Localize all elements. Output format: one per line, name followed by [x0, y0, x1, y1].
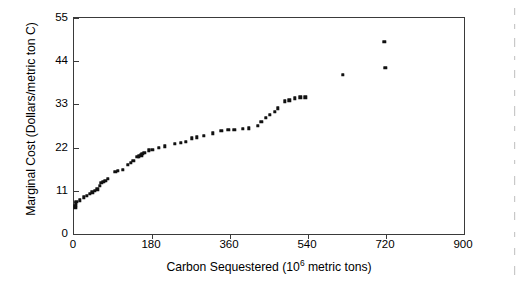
x-axis-tick-label: 180 — [141, 238, 160, 250]
y-axis-tick-labels: 01122334455 — [40, 17, 68, 235]
y-axis-tick — [74, 234, 79, 235]
data-point — [179, 141, 182, 144]
data-point — [98, 184, 101, 187]
x-axis-tick-label: 900 — [453, 238, 472, 250]
x-axis-title-main: Carbon Sequestered (10 — [166, 260, 299, 274]
y-axis-tick-label: 55 — [55, 11, 68, 23]
data-point — [259, 120, 262, 123]
data-point — [298, 96, 301, 99]
data-point — [132, 159, 135, 162]
data-point — [241, 127, 244, 130]
data-point — [283, 100, 286, 103]
x-axis-tick-label: 0 — [70, 238, 76, 250]
data-point — [268, 113, 271, 116]
data-point — [233, 128, 236, 131]
data-point — [383, 66, 386, 69]
data-point — [151, 148, 154, 151]
data-point — [247, 127, 250, 130]
chart-figure: Marginal Cost (Dollars/metric ton C) 011… — [0, 0, 520, 293]
data-point — [190, 136, 193, 139]
x-axis-tick-label: 360 — [219, 238, 238, 250]
x-axis-title-tail: metric tons) — [305, 260, 372, 274]
data-point — [211, 132, 214, 135]
data-point — [142, 151, 145, 154]
plot-area — [73, 17, 465, 235]
data-point — [256, 124, 259, 127]
data-point — [74, 200, 77, 203]
data-point — [276, 107, 279, 110]
data-point — [383, 40, 386, 43]
data-point — [126, 163, 129, 166]
data-point — [106, 177, 109, 180]
data-point — [202, 134, 205, 137]
y-axis-tick-label: 44 — [55, 54, 68, 66]
y-axis-tick — [74, 61, 79, 62]
data-point — [195, 136, 198, 139]
y-axis-tick — [74, 191, 79, 192]
data-point — [116, 169, 119, 172]
y-axis-tick — [74, 148, 79, 149]
y-axis-tick-label: 11 — [56, 184, 68, 196]
x-axis-title: Carbon Sequestered (106 metric tons) — [73, 258, 465, 274]
data-point — [121, 168, 124, 171]
y-axis-tick — [74, 18, 79, 19]
scan-edge-artifact — [506, 0, 520, 293]
y-axis-tick-label: 33 — [55, 97, 68, 109]
data-point — [273, 110, 276, 113]
y-axis-tick-label: 0 — [62, 227, 68, 239]
data-point — [304, 96, 307, 99]
y-axis-title: Marginal Cost (Dollars/metric ton C) — [24, 4, 38, 234]
scatter-points-layer — [74, 18, 464, 234]
data-point — [264, 116, 267, 119]
y-axis-tick — [74, 104, 79, 105]
data-point — [78, 199, 81, 202]
data-point — [184, 140, 187, 143]
data-point — [163, 145, 166, 148]
x-axis-tick-label: 720 — [375, 238, 394, 250]
data-point — [157, 146, 160, 149]
x-axis-tick-labels: 0180360540720900 — [73, 238, 465, 256]
data-point — [341, 73, 344, 76]
data-point — [96, 188, 99, 191]
data-point — [288, 99, 291, 102]
data-point — [227, 128, 230, 131]
data-point — [220, 129, 223, 132]
data-point — [147, 149, 150, 152]
data-point — [173, 142, 176, 145]
x-axis-tick-label: 540 — [297, 238, 316, 250]
y-axis-tick-label: 22 — [55, 141, 68, 153]
data-point — [293, 96, 296, 99]
